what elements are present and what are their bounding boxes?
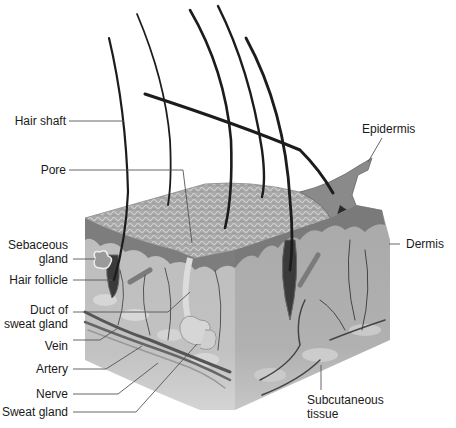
label-pore: Pore — [0, 163, 66, 177]
label-sebaceous-gland-line2: gland — [0, 252, 68, 266]
label-sebaceous-gland-line1: Sebaceous — [0, 238, 68, 252]
label-artery: Artery — [0, 362, 68, 376]
label-nerve: Nerve — [0, 387, 68, 401]
label-hair-follicle: Hair follicle — [0, 273, 68, 287]
label-vein: Vein — [0, 339, 68, 353]
label-dermis: Dermis — [406, 237, 444, 251]
skin-diagram: Hair shaft Pore Sebaceous gland Hair fol… — [0, 0, 456, 428]
skin-illustration — [0, 0, 456, 428]
label-hair-shaft: Hair shaft — [0, 114, 66, 128]
label-duct-of-sweat-gland-line2: sweat gland — [0, 317, 68, 331]
label-epidermis: Epidermis — [362, 122, 415, 136]
label-duct-of-sweat-gland-line1: Duct of — [0, 303, 68, 317]
label-subcutaneous-tissue-line2: tissue — [307, 407, 338, 421]
label-sweat-gland: Sweat gland — [0, 405, 68, 419]
label-subcutaneous-tissue-line1: Subcutaneous — [307, 393, 384, 407]
